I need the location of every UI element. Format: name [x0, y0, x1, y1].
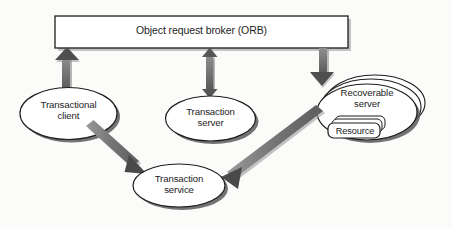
node-transaction-service[interactable] [133, 164, 228, 210]
arrow-client-to-transaction-service[interactable] [86, 120, 147, 174]
arrow-orb-transaction-server[interactable] [202, 48, 218, 99]
orb-box[interactable] [55, 16, 351, 51]
node-transaction-server[interactable] [166, 96, 259, 144]
arrow-orb-to-recoverable-server[interactable] [310, 48, 335, 88]
diagram-vector-layer [0, 0, 452, 229]
diagram-canvas: Object request broker (ORB) Transactiona… [0, 0, 452, 229]
node-resource[interactable] [328, 116, 385, 138]
arrow-client-to-orb[interactable] [55, 47, 80, 92]
